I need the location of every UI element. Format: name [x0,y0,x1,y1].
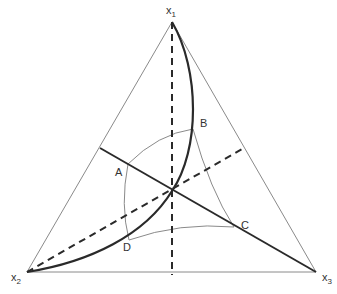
arc-d-c [129,226,234,240]
point-label-d: D [123,241,131,253]
point-label-b: B [200,117,207,129]
vertex-label-x2: x2 [11,271,22,286]
vertex-label-x3: x3 [322,271,333,286]
thick-curve [27,22,193,272]
dashed-diagonal-line [27,148,244,272]
arc-a-d [124,164,129,240]
point-label-c: C [241,219,249,231]
ternary-diagram: x1 x2 x3 A B C D [0,0,337,294]
arc-a-b [128,129,193,164]
point-label-a: A [115,166,123,178]
solid-axis-line [100,148,316,272]
vertex-label-x1: x1 [166,4,177,19]
